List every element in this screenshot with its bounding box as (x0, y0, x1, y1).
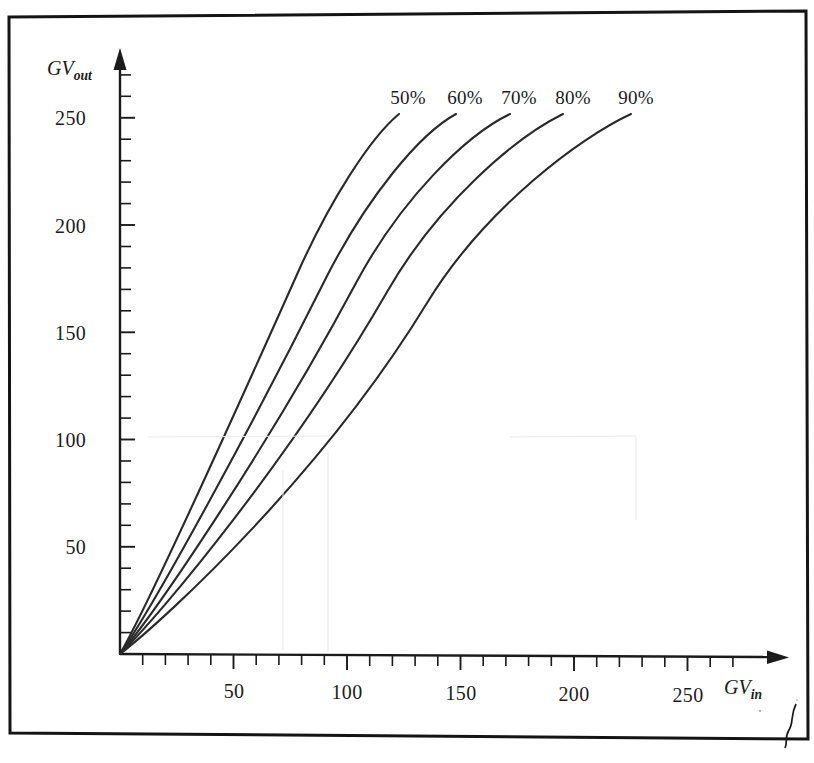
graph-canvas (0, 0, 814, 763)
x-tick-label-150: 150 (436, 683, 486, 703)
curve-label-60: 60% (440, 88, 490, 107)
x-tick-label-50: 50 (213, 681, 255, 701)
curve-label-50: 50% (383, 88, 433, 107)
transfer-curves (120, 114, 631, 654)
y-tick-label-50: 50 (28, 537, 86, 557)
y-tick-label-150: 150 (28, 323, 86, 343)
x-axis-title-main: GV (724, 676, 751, 698)
x-axis-title: GVin (724, 677, 762, 702)
axis-lines (114, 48, 790, 664)
curve-80 (120, 114, 563, 654)
y-axis-title: GVout (47, 58, 92, 83)
y-tick-label-250: 250 (28, 108, 86, 128)
y-axis-title-subscript: out (74, 68, 92, 83)
y-axis-ticks (120, 75, 135, 633)
curve-50 (120, 114, 399, 654)
x-tick-label-200: 200 (549, 684, 599, 704)
curve-70 (120, 114, 510, 654)
curve-label-90: 90% (611, 88, 661, 107)
curve-label-70: 70% (494, 88, 544, 107)
curve-label-80: 80% (548, 88, 598, 107)
ink-flourish (759, 699, 798, 748)
x-tick-label-250: 250 (663, 685, 713, 705)
x-axis-title-subscript: in (751, 687, 762, 702)
y-axis-title-main: GV (47, 57, 74, 79)
x-tick-label-100: 100 (322, 682, 372, 702)
y-tick-label-200: 200 (28, 216, 86, 236)
figure-page: GVout GVin 50 100 150 200 250 50 100 150… (0, 0, 814, 763)
y-tick-label-100: 100 (28, 430, 86, 450)
scan-artifacts (148, 436, 636, 652)
curve-60 (120, 114, 456, 654)
